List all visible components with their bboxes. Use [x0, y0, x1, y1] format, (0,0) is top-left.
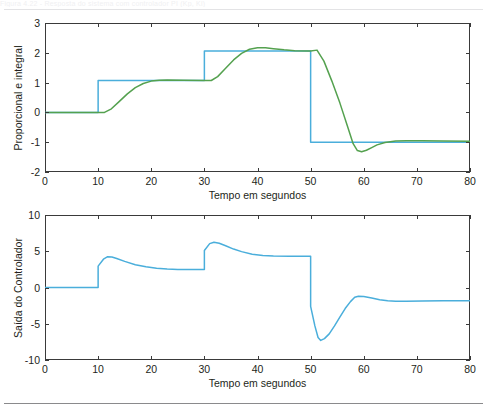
x-tick-mark	[470, 23, 471, 27]
chart-proporcional-e-integral: Proporcional e integral Tempo em segundo…	[45, 23, 470, 172]
x-tick-mark	[258, 215, 259, 219]
y-tick-mark-right	[466, 83, 470, 84]
x-tick-mark	[470, 215, 471, 219]
y-tick-mark	[45, 112, 49, 113]
y-axis-title-bottom: Saída do Controlador	[13, 218, 24, 358]
x-tick-mark-bottom	[204, 168, 205, 172]
y-tick-mark-right	[466, 142, 470, 143]
x-tick-label: 40	[252, 364, 264, 375]
x-tick-label: 50	[305, 176, 317, 187]
x-tick-mark-bottom	[45, 168, 46, 172]
y-tick-mark	[45, 172, 49, 173]
x-tick-mark-bottom	[258, 356, 259, 360]
y-tick-label: 3	[34, 18, 40, 29]
x-tick-mark	[364, 215, 365, 219]
x-tick-mark	[98, 23, 99, 27]
plot-canvas-top	[45, 23, 470, 172]
series-line	[45, 48, 470, 152]
x-tick-label: 50	[305, 364, 317, 375]
y-tick-mark-right	[466, 288, 470, 289]
x-tick-mark-bottom	[364, 356, 365, 360]
x-tick-mark	[204, 23, 205, 27]
x-tick-label: 40	[252, 176, 264, 187]
cropped-caption-text: Figura 4.22 - Resposta do sistema com co…	[0, 0, 487, 7]
y-tick-label: -10	[25, 355, 40, 366]
x-tick-mark	[311, 215, 312, 219]
x-tick-mark-bottom	[417, 356, 418, 360]
x-tick-mark	[98, 215, 99, 219]
x-tick-mark-bottom	[45, 356, 46, 360]
y-tick-mark-right	[466, 360, 470, 361]
x-tick-mark	[151, 23, 152, 27]
x-tick-mark	[311, 23, 312, 27]
y-tick-mark	[45, 142, 49, 143]
x-tick-mark-bottom	[204, 356, 205, 360]
x-tick-mark-bottom	[98, 356, 99, 360]
y-tick-label: 1	[34, 77, 40, 88]
x-tick-mark-bottom	[364, 168, 365, 172]
x-tick-label: 30	[199, 364, 211, 375]
x-tick-mark	[45, 23, 46, 27]
series-line	[45, 51, 470, 142]
x-tick-label: 10	[92, 364, 104, 375]
x-tick-mark	[417, 215, 418, 219]
y-tick-mark-right	[466, 53, 470, 54]
y-axis-title-top: Proporcional e integral	[13, 28, 24, 168]
y-tick-mark	[45, 53, 49, 54]
x-tick-mark	[45, 215, 46, 219]
y-tick-mark-right	[466, 251, 470, 252]
figure-page: Figura 4.22 - Resposta do sistema com co…	[0, 0, 487, 411]
y-tick-label: 5	[34, 246, 40, 257]
x-tick-label: 70	[411, 364, 423, 375]
plot-canvas-bottom	[45, 215, 470, 360]
x-tick-mark-bottom	[258, 168, 259, 172]
y-tick-mark	[45, 324, 49, 325]
y-tick-label: -2	[31, 167, 40, 178]
x-tick-mark-bottom	[470, 168, 471, 172]
y-tick-mark-right	[466, 324, 470, 325]
y-tick-mark-right	[466, 172, 470, 173]
x-tick-mark	[417, 23, 418, 27]
y-tick-label: 2	[34, 48, 40, 59]
x-tick-label: 70	[411, 176, 423, 187]
x-tick-label: 0	[42, 176, 48, 187]
x-tick-label: 0	[42, 364, 48, 375]
y-tick-mark	[45, 251, 49, 252]
y-tick-label: 0	[34, 282, 40, 293]
x-tick-label: 80	[464, 364, 476, 375]
x-tick-mark-bottom	[470, 356, 471, 360]
y-tick-label: -1	[31, 137, 40, 148]
chart-saida-do-controlador: Saída do Controlador Tempo em segundos -…	[45, 215, 470, 360]
y-tick-mark	[45, 360, 49, 361]
bottom-divider	[4, 403, 483, 404]
top-divider	[4, 9, 483, 10]
x-axis-title-top: Tempo em segundos	[209, 190, 306, 201]
y-tick-mark	[45, 288, 49, 289]
y-tick-mark	[45, 83, 49, 84]
x-tick-mark-bottom	[151, 168, 152, 172]
y-tick-label: 0	[34, 107, 40, 118]
x-tick-label: 10	[92, 176, 104, 187]
x-tick-label: 20	[145, 364, 157, 375]
x-tick-label: 20	[145, 176, 157, 187]
x-tick-label: 60	[358, 364, 370, 375]
x-tick-mark-bottom	[98, 168, 99, 172]
x-tick-mark-bottom	[311, 168, 312, 172]
x-tick-mark	[151, 215, 152, 219]
series-line	[45, 242, 470, 340]
x-tick-mark-bottom	[417, 168, 418, 172]
x-axis-title-bottom: Tempo em segundos	[209, 378, 306, 389]
y-tick-label: -5	[31, 319, 40, 330]
x-tick-mark-bottom	[151, 356, 152, 360]
x-tick-label: 80	[464, 176, 476, 187]
y-tick-mark-right	[466, 112, 470, 113]
x-tick-mark	[258, 23, 259, 27]
x-tick-mark	[364, 23, 365, 27]
x-tick-mark-bottom	[311, 356, 312, 360]
x-tick-label: 60	[358, 176, 370, 187]
x-tick-mark	[204, 215, 205, 219]
x-tick-label: 30	[199, 176, 211, 187]
y-tick-label: 10	[28, 210, 40, 221]
